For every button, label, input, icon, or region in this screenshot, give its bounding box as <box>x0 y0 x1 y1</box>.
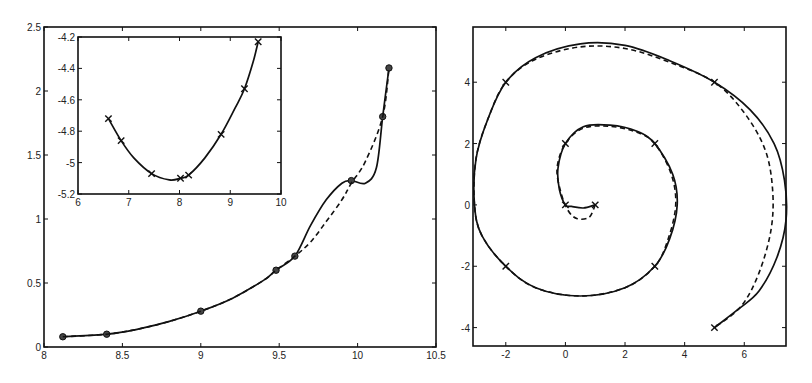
figure: 88.599.51010.500.511.522.5 678910-5.2-5-… <box>0 0 812 383</box>
inset-chart: 678910-5.2-5-4.8-4.6-4.4-4.2 <box>58 32 287 208</box>
inset-chart-ytick-label: -5.2 <box>58 189 76 200</box>
right-chart-ytick-label: -4 <box>461 323 470 334</box>
inset-chart-ytick-label: -4.6 <box>58 95 76 106</box>
left-chart-xtick-label: 10.5 <box>426 350 446 361</box>
right-chart-xtick-label: 0 <box>563 349 569 360</box>
inset-chart-ytick-label: -4.8 <box>58 126 76 137</box>
inset-chart-xtick-label: 6 <box>75 197 81 208</box>
left-chart-ytick-label: 2.5 <box>27 22 41 33</box>
left-chart-xtick-label: 8.5 <box>115 350 129 361</box>
right-chart-xtick-label: 4 <box>682 349 688 360</box>
right-chart-frame <box>473 27 786 346</box>
inset-chart-xtick-label: 8 <box>177 197 183 208</box>
left-chart-xtick-label: 10 <box>352 350 364 361</box>
left-chart-ytick-label: 2 <box>35 86 41 97</box>
right-chart-xtick-label: 6 <box>741 349 747 360</box>
left-chart-ytick-label: 0 <box>35 342 41 353</box>
left-chart-ytick-label: 1 <box>35 214 41 225</box>
left-chart-ytick-label: 0.5 <box>27 278 41 289</box>
inset-chart-ytick-label: -4.2 <box>58 32 76 43</box>
inset-chart-xtick-label: 7 <box>126 197 132 208</box>
right-chart-xtick-label: -2 <box>501 349 510 360</box>
inset-chart-frame <box>78 37 281 194</box>
inset-chart-ytick-label: -4.4 <box>58 63 76 74</box>
left-chart-ytick-label: 1.5 <box>27 150 41 161</box>
right-chart-xtick-label: 2 <box>622 349 628 360</box>
inset-chart-xtick-label: 9 <box>227 197 233 208</box>
left-chart-xtick-label: 8 <box>41 350 47 361</box>
right-chart-ytick-label: 4 <box>464 77 470 88</box>
right-chart: -20246-4-2024 <box>461 27 786 360</box>
circle-marker-icon <box>386 65 392 71</box>
inset-chart-xtick-label: 10 <box>275 197 287 208</box>
left-chart-xtick-label: 9 <box>198 350 204 361</box>
inset-chart-ytick-label: -5 <box>66 158 75 169</box>
right-chart-ytick-label: 0 <box>464 200 470 211</box>
left-chart-xtick-label: 9.5 <box>272 350 286 361</box>
right-chart-ytick-label: -2 <box>461 261 470 272</box>
right-chart-ytick-label: 2 <box>464 139 470 150</box>
